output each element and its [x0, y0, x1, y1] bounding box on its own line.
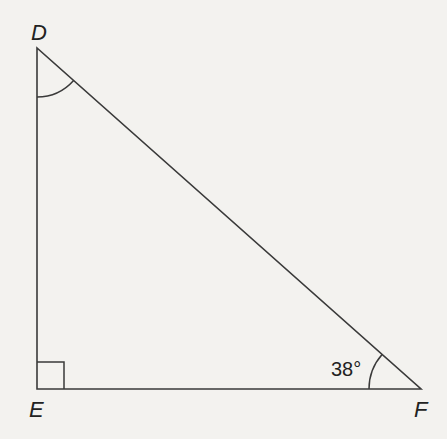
angle-arc-d: [37, 81, 74, 98]
angle-value-label-f: 38°: [331, 358, 361, 380]
triangle-diagram: D E F 38°: [0, 0, 447, 439]
right-angle-marker: [37, 362, 64, 389]
geometry-figure: D E F 38°: [0, 0, 447, 439]
vertex-label-d: D: [31, 20, 47, 45]
vertex-label-f: F: [414, 397, 429, 422]
vertex-label-e: E: [29, 397, 44, 422]
angle-arc-f: [369, 355, 382, 390]
triangle-outline: [37, 48, 421, 389]
